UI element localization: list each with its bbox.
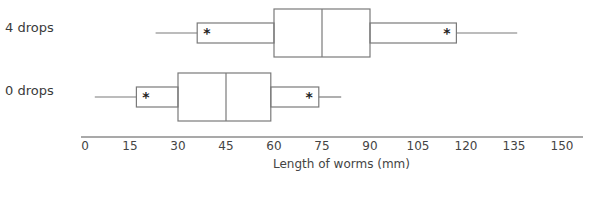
interquartile-box — [178, 73, 271, 121]
x-tick-label: 45 — [218, 139, 233, 153]
x-tick-label: 150 — [551, 139, 574, 153]
x-tick-label: 15 — [122, 139, 137, 153]
x-axis-title: Length of worms (mm) — [273, 157, 410, 171]
star-marker-icon: * — [203, 25, 211, 41]
x-tick-label: 60 — [266, 139, 281, 153]
x-tick-label: 120 — [455, 139, 478, 153]
star-marker-icon: * — [443, 25, 451, 41]
x-tick-label: 90 — [362, 139, 377, 153]
x-tick-label: 75 — [314, 139, 329, 153]
x-tick-label: 0 — [81, 139, 89, 153]
x-tick-label: 30 — [170, 139, 185, 153]
x-tick-label: 135 — [503, 139, 526, 153]
star-marker-icon: * — [142, 89, 150, 105]
star-marker-icon: * — [306, 89, 314, 105]
x-tick-label: 105 — [407, 139, 430, 153]
